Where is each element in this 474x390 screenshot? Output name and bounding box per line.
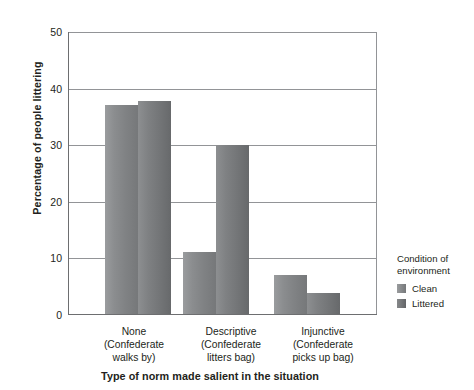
bar-injunctive-littered — [307, 293, 340, 314]
x-group-injunctive-sub1: (Confederate — [258, 338, 388, 351]
bar-none-clean — [105, 105, 138, 314]
bar-none-littered — [138, 101, 171, 314]
legend-title-line1: Condition of — [397, 253, 448, 264]
legend-label-clean: Clean — [412, 284, 437, 294]
legend-item-clean: Clean — [397, 281, 474, 296]
legend-swatch-clean-icon — [397, 284, 406, 293]
legend-title: Condition of environment — [397, 253, 471, 276]
bar-descriptive-clean — [183, 252, 216, 314]
x-group-label-injunctive: Injunctive (Confederate picks up bag) — [258, 325, 388, 365]
x-group-injunctive-sub2: picks up bag) — [258, 351, 388, 364]
y-tick-10: 10 — [28, 253, 62, 264]
legend: Condition of environment Clean Littered — [397, 253, 474, 311]
bar-descriptive-littered — [216, 145, 249, 314]
legend-item-littered: Littered — [397, 296, 474, 311]
y-axis-title: Percentage of people littering — [31, 28, 43, 248]
legend-title-line2: environment — [397, 265, 471, 277]
legend-swatch-littered-icon — [397, 299, 406, 308]
bar-chart-figure: 50 40 30 20 10 0 Percentage of people li… — [0, 0, 474, 390]
x-axis-title: Type of norm made salient in the situati… — [0, 370, 420, 382]
x-group-injunctive-head: Injunctive — [258, 325, 388, 338]
bar-injunctive-clean — [274, 275, 307, 314]
plot-area — [68, 32, 377, 315]
bars-layer — [69, 32, 377, 314]
legend-items: Clean Littered — [397, 281, 474, 311]
y-tick-0: 0 — [28, 310, 62, 321]
legend-label-littered: Littered — [412, 299, 444, 309]
